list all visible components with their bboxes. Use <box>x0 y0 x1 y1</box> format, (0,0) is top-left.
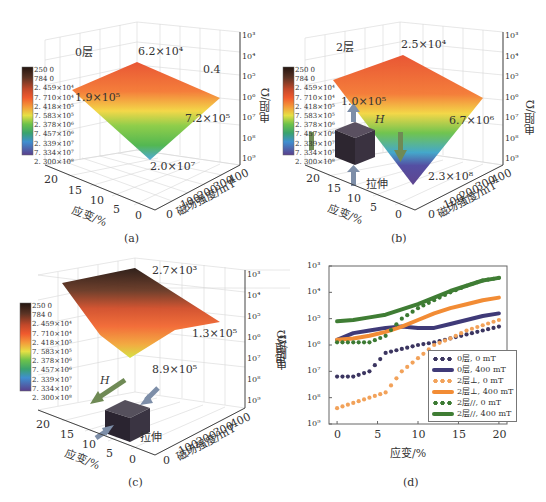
colorbar-label: 2. 300×10⁸ <box>32 394 72 403</box>
colorbar-label: 2. 378×10⁶ <box>295 121 335 130</box>
colorbar-label: 7. 583×10⁵ <box>34 112 74 121</box>
x-tick: 10 <box>412 428 426 441</box>
x-tick: 5 <box>374 428 381 441</box>
colorbar-label: 2. 459×10⁴ <box>32 320 72 329</box>
panel-b: 250 0 784 0 2. 459×10⁴ 7. 710×10⁴ 2. 418… <box>273 0 546 250</box>
legend-label: 2层⊥, 400 mT <box>457 386 513 397</box>
strain-tick: 0 <box>135 209 142 222</box>
strain-tick: 20 <box>36 418 50 431</box>
y-tick: 10⁵ <box>307 314 320 323</box>
colorbar-label: 7. 334×10⁷ <box>295 149 335 158</box>
legend-swatch <box>432 400 454 406</box>
z-axis-label: 电阻/Ω <box>523 100 539 135</box>
annotation: 8.9×10⁵ <box>152 363 197 376</box>
y-tick: 10⁴ <box>307 287 320 296</box>
z-axis-ticks: 10³10⁴10⁵ 10⁶10⁷10⁸ 10⁹ <box>247 264 260 411</box>
legend-item: 2层//, 400 mT <box>432 408 513 419</box>
field-tick: 0 <box>428 208 435 221</box>
annotation: 1.0×10⁵ <box>341 95 386 108</box>
legend-label: 2层//, 400 mT <box>457 408 511 419</box>
legend-item: 0层, 0 mT <box>432 353 513 364</box>
colorbar-label: 2. 378×10⁶ <box>34 121 74 130</box>
colorbar-label: 7. 710×10⁴ <box>32 330 72 339</box>
annotation: 2.7×10³ <box>152 264 197 277</box>
caption-a: (a) <box>124 232 139 245</box>
y-tick: 10⁸ <box>307 393 320 402</box>
colorbar-label: 7. 457×10⁶ <box>32 366 72 375</box>
strain-tick: 20 <box>44 173 58 186</box>
colorbar-label: 2. 339×10⁷ <box>32 376 72 385</box>
colorbar-label: 7. 583×10⁵ <box>295 112 335 121</box>
field-symbol: H <box>375 113 385 126</box>
annotation: 6.7×10⁶ <box>449 114 494 127</box>
x-axis-label: 应变/% <box>390 444 426 460</box>
colorbar-label: 7. 457×10⁶ <box>34 130 74 139</box>
colorbar-label: 2. 459×10⁴ <box>34 84 74 93</box>
y-tick: 10³ <box>307 261 320 270</box>
y-axis-label: 电阻/Ω <box>274 330 290 365</box>
colorbar-label: 2. 339×10⁷ <box>295 140 335 149</box>
colorbar-label: 2. 418×10⁵ <box>34 103 74 112</box>
annotation: 6.2×10⁴ <box>138 45 183 58</box>
colorbar-label: 784 0 <box>32 311 72 320</box>
x-tick: 15 <box>452 428 466 441</box>
colorbar-label: 7. 710×10⁴ <box>34 94 74 103</box>
field-symbol: H <box>100 374 110 387</box>
legend-item: 2层⊥, 0 mT <box>432 375 513 386</box>
legend: 0层, 0 mT0层, 400 mT2层⊥, 0 mT2层⊥, 400 mT2层… <box>428 350 517 422</box>
x-tick: 0 <box>334 428 341 441</box>
annotation: 7.2×10⁵ <box>185 112 230 125</box>
strain-tick: 0 <box>395 208 402 221</box>
strain-tick: 15 <box>60 428 74 441</box>
colorbar-label: 7. 457×10⁶ <box>295 130 335 139</box>
colorbar-label: 2. 418×10⁵ <box>295 103 335 112</box>
layer-label: 0层 <box>75 43 93 59</box>
caption-c: (c) <box>128 476 143 489</box>
stretch-label: 拉伸 <box>366 175 388 191</box>
legend-swatch <box>432 368 454 372</box>
caption-b: (b) <box>391 232 407 245</box>
colorbar-label: 784 0 <box>295 75 335 84</box>
strain-tick: 10 <box>90 194 104 207</box>
colorbar-label: 2. 459×10⁴ <box>295 84 335 93</box>
colorbar-labels-b: 250 0 784 0 2. 459×10⁴ 7. 710×10⁴ 2. 418… <box>295 66 335 167</box>
x-tick: 20 <box>493 428 507 441</box>
strain-tick: 15 <box>68 184 82 197</box>
colorbar-label: 7. 583×10⁵ <box>32 348 72 357</box>
y-tick: 10⁹ <box>307 419 320 428</box>
sample-cube-icon <box>335 122 375 165</box>
strain-tick: 20 <box>306 172 320 185</box>
strain-tick: 10 <box>347 192 361 205</box>
strain-tick: 15 <box>327 182 341 195</box>
colorbar-labels-c: 250 0 784 0 2. 459×10⁴ 7. 710×10⁴ 2. 418… <box>32 302 72 403</box>
colorbar-label: 2. 300×10⁸ <box>295 158 335 167</box>
layer-label: 2层 <box>336 38 354 54</box>
colorbar-labels-a: 250 0 784 0 2. 459×10⁴ 7. 710×10⁴ 2. 418… <box>34 66 74 167</box>
field-tick: 0 <box>163 454 170 467</box>
legend-item: 0层, 400 mT <box>432 364 513 375</box>
colorbar-label: 250 0 <box>34 66 74 75</box>
stretch-label: 拉伸 <box>140 428 162 444</box>
legend-label: 0层, 0 mT <box>457 353 496 364</box>
legend-swatch <box>432 378 454 384</box>
legend-item: 2层⊥, 400 mT <box>432 386 513 397</box>
colorbar-label: 250 0 <box>32 302 72 311</box>
legend-item: 2层//, 0 mT <box>432 397 513 408</box>
colorbar-label: 2. 339×10⁷ <box>34 140 74 149</box>
y-tick: 10⁶ <box>307 340 320 349</box>
annotation: 1.3×10⁵ <box>192 327 237 340</box>
legend-swatch <box>432 356 454 362</box>
annotation: 2.5×10⁴ <box>401 38 446 51</box>
colorbar-label: 784 0 <box>34 75 74 84</box>
strain-tick: 5 <box>370 201 377 214</box>
z-axis-ticks: 10³10⁴10⁵ 10⁶10⁷10⁸ 10⁹ <box>505 26 518 170</box>
annotation: 0.4 <box>203 63 221 76</box>
legend-swatch <box>432 390 454 394</box>
z-axis-ticks: 10³10⁴10⁵ 10⁶10⁷10⁸ 10⁹ <box>242 26 255 170</box>
field-tick: 0 <box>166 208 173 221</box>
legend-label: 0层, 400 mT <box>457 364 506 375</box>
y-tick: 10⁷ <box>307 366 320 375</box>
annotation: 1.9×10⁵ <box>75 91 120 104</box>
colorbar-label: 7. 710×10⁴ <box>295 94 335 103</box>
colorbar-label: 250 0 <box>295 66 335 75</box>
